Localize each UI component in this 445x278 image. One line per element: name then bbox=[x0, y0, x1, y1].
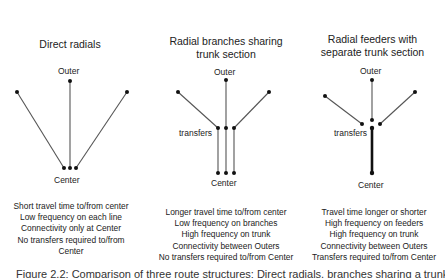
branch-lines bbox=[178, 80, 269, 173]
direct-radial-lines bbox=[17, 81, 127, 168]
route-structure-diagram: Direct radials Outer Center Short travel… bbox=[0, 0, 445, 278]
network-graphics bbox=[0, 0, 445, 278]
feeder-stops bbox=[323, 78, 417, 175]
branch-stops bbox=[176, 78, 271, 175]
feeder-lines bbox=[325, 80, 415, 124]
direct-radial-stops bbox=[15, 79, 129, 170]
figure-caption: Figure 2.2: Comparison of three route st… bbox=[16, 268, 445, 278]
